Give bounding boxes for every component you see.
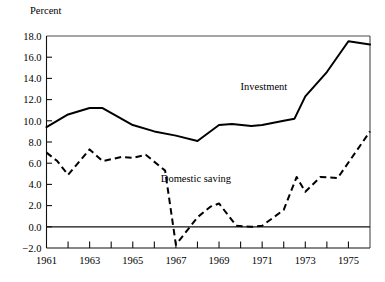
y-axis-tick-label: 8.0 [28,137,41,148]
y-axis-ticks [47,57,53,227]
series-line-investment [47,41,371,141]
y-axis-tick-label: 6.0 [28,158,41,169]
line-chart: Percent 18.016.014.012.010.08.06.04.02.0… [0,0,385,282]
x-axis-tick-label: 1975 [338,255,359,266]
x-axis-tick-label: 1963 [79,255,100,266]
y-axis-tick-label: −2.0 [22,243,41,254]
x-axis-tick-label: 1969 [209,255,230,266]
y-axis-title: Percent [30,5,62,16]
x-axis-tick-labels: 19611963196519671969197119731975 [36,255,359,266]
x-axis-tick-label: 1967 [165,255,186,266]
x-axis-tick-label: 1973 [295,255,316,266]
y-axis-tick-label: 18.0 [23,31,41,42]
y-axis-tick-labels: 18.016.014.012.010.08.06.04.02.00.0−2.0 [22,31,41,254]
x-axis-ticks [68,242,348,249]
x-axis-tick-label: 1961 [36,255,57,266]
y-axis-tick-label: 0.0 [28,222,41,233]
x-axis-tick-label: 1965 [122,255,143,266]
y-axis-tick-label: 4.0 [28,179,41,190]
x-axis-tick-label: 1971 [252,255,273,266]
y-axis-tick-label: 16.0 [23,52,41,63]
chart-container: Percent 18.016.014.012.010.08.06.04.02.0… [0,0,385,282]
y-axis-tick-label: 14.0 [23,73,41,84]
series-line-domestic-saving [47,131,371,244]
series-label-investment: Investment [241,81,288,92]
y-axis-tick-label: 10.0 [23,116,41,127]
y-axis-tick-label: 12.0 [23,94,41,105]
series-label-domestic-saving: Domestic saving [161,173,232,184]
y-axis-tick-label: 2.0 [28,200,41,211]
